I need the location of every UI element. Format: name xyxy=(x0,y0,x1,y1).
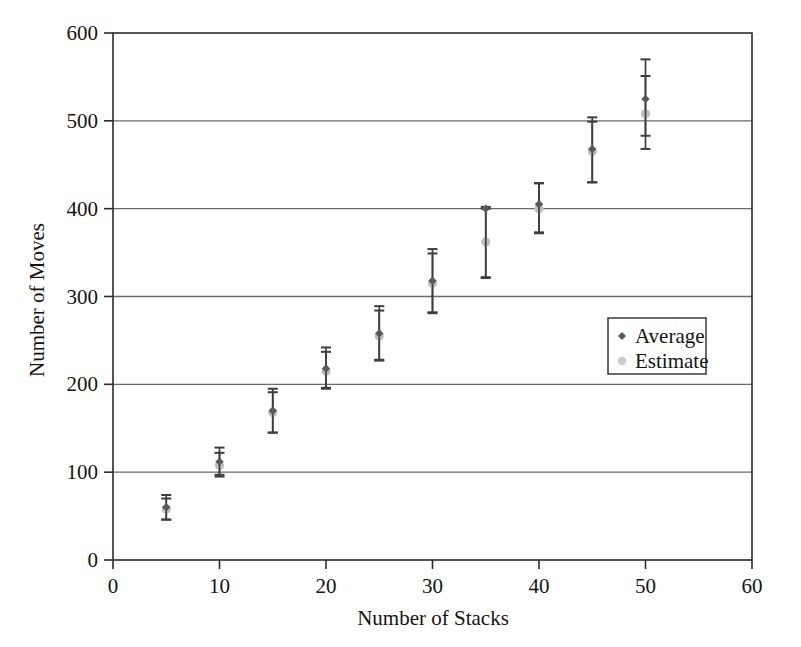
chart-figure: 0100200300400500600 0102030405060 Number… xyxy=(0,0,801,647)
x-tick-label-0: 0 xyxy=(108,574,119,598)
x-tick-label-10: 10 xyxy=(209,574,230,598)
x-axis-title: Number of Stacks xyxy=(357,606,509,630)
y-tick-label-100: 100 xyxy=(67,460,99,484)
y-tick-label-0: 0 xyxy=(88,548,99,572)
x-tick-label-50: 50 xyxy=(635,574,656,598)
y-tick-label-200: 200 xyxy=(67,372,99,396)
y-tick-label-600: 600 xyxy=(67,21,99,45)
x-tick-label-60: 60 xyxy=(742,574,763,598)
x-tick-label-20: 20 xyxy=(316,574,337,598)
x-tick-label-30: 30 xyxy=(422,574,443,598)
scatter-plot-with-error-bars: 0100200300400500600 0102030405060 Number… xyxy=(0,0,801,647)
y-tick-label-300: 300 xyxy=(67,285,99,309)
legend-marker-estimate xyxy=(618,357,626,365)
legend: AverageEstimate xyxy=(608,318,708,374)
y-tick-label-500: 500 xyxy=(67,109,99,133)
legend-label-estimate: Estimate xyxy=(635,349,708,373)
y-tick-label-400: 400 xyxy=(67,197,99,221)
y-axis-title: Number of Moves xyxy=(25,223,49,377)
x-tick-label-40: 40 xyxy=(529,574,550,598)
legend-label-average: Average xyxy=(635,324,705,348)
